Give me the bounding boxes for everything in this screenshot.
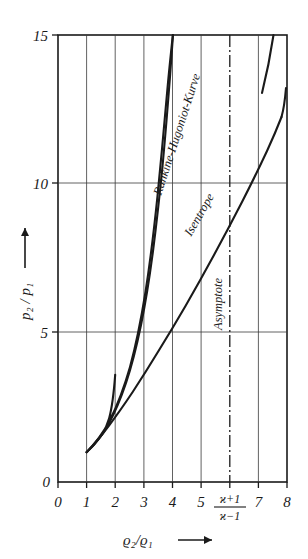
y-tick-label-0: 0 [43, 474, 51, 490]
rankine-hugoniot-chart: Rankine-Hugoniot-Kurve Isentrope Asympto… [0, 0, 308, 559]
y-tick-label-5: 5 [41, 325, 49, 341]
x-tick-label-4: 4 [169, 494, 177, 510]
x-tick-label-2: 2 [111, 494, 119, 510]
fraction-numerator: ϰ+1 [219, 492, 240, 506]
y-axis-title-text: p₂ / p₁ [17, 283, 33, 321]
x-tick-label-3: 3 [139, 494, 148, 510]
x-tick-label-1: 1 [83, 494, 91, 510]
x-tick-labels: 0 1 2 3 4 5 7 8 [54, 494, 291, 510]
y-tick-label-10: 10 [33, 176, 49, 192]
x-axis-title-text: ϱ₂/ϱ₁ [123, 532, 153, 548]
x-tick-label-0: 0 [54, 494, 62, 510]
curve-label-asymptote-text: Asymptote [211, 277, 225, 331]
y-tick-label-15: 15 [33, 28, 49, 44]
fraction-denominator: ϰ−1 [219, 509, 240, 523]
label-asymptote: Asymptote [211, 277, 225, 331]
x-tick-label-8: 8 [283, 494, 291, 510]
chart-figure: Rankine-Hugoniot-Kurve Isentrope Asympto… [0, 0, 308, 559]
x-tick-label-5: 5 [197, 494, 205, 510]
